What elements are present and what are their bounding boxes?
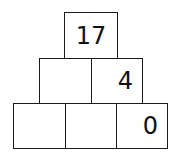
pyramid-cell-bottom-right[interactable]: 0 bbox=[116, 103, 168, 149]
pyramid-cell-bottom-middle[interactable] bbox=[65, 103, 117, 149]
cell-value: 0 bbox=[143, 112, 158, 140]
pyramid-cell-bottom-left[interactable] bbox=[13, 103, 66, 149]
cell-value: 17 bbox=[76, 22, 107, 50]
cell-value: 4 bbox=[118, 67, 133, 95]
pyramid-cell-top[interactable]: 17 bbox=[64, 12, 118, 59]
pyramid-cell-middle-left[interactable] bbox=[39, 58, 92, 104]
pyramid-cell-middle-right[interactable]: 4 bbox=[91, 58, 143, 104]
